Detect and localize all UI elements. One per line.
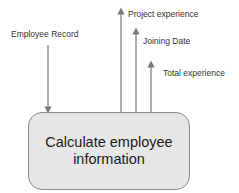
input-label-employee-record: Employee Record — [11, 30, 79, 39]
output-label-joining-date: Joining Date — [143, 37, 190, 46]
process-box: Calculate employee information — [28, 112, 190, 190]
output-label-total-experience: Total experience — [163, 69, 225, 78]
process-label-line2: information — [45, 151, 172, 168]
process-label: Calculate employee information — [45, 134, 172, 167]
output-label-project-experience: Project experience — [128, 10, 198, 19]
process-label-line1: Calculate employee — [45, 134, 172, 151]
